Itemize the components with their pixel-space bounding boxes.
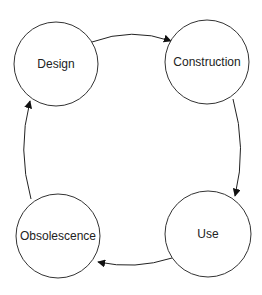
node-construction: Construction	[165, 20, 249, 104]
lifecycle-diagram: Design Construction Use Obsolescence	[0, 0, 262, 295]
obsolescence-label: Obsolescence	[20, 229, 96, 243]
edge-construction-to-use	[233, 99, 241, 196]
edge-design-to-construction	[92, 34, 171, 42]
construction-label: Construction	[173, 55, 240, 69]
edge-use-to-obsolescence	[98, 258, 172, 265]
node-use: Use	[165, 191, 251, 277]
node-obsolescence: Obsolescence	[16, 194, 100, 278]
design-label: Design	[37, 57, 74, 71]
use-label: Use	[197, 227, 219, 241]
edge-obsolescence-to-design	[24, 101, 31, 199]
node-design: Design	[14, 22, 98, 106]
